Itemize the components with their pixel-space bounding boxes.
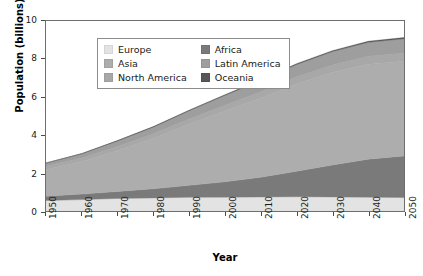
y-tick-label: 10 [26,16,37,25]
x-tick-mark [369,212,370,216]
y-tick-label: 0 [31,208,37,217]
y-axis-title: Population (billions) [14,0,25,131]
y-axis: Population (billions) 0246810 [0,0,45,232]
legend-item-europe: Europe [104,43,187,56]
x-tick-label: 1970 [121,196,130,219]
x-tick-mark [45,212,46,216]
x-tick-mark [189,212,190,216]
y-tick-label: 4 [31,131,37,140]
x-tick-label: 2010 [265,196,274,219]
y-tick-label: 2 [31,169,37,178]
y-tick-label: 8 [31,54,37,63]
legend-item-label: Latin America [215,57,281,70]
x-tick-label: 2040 [373,196,382,219]
legend-swatch-asia-icon [104,59,113,68]
x-tick-label: 1990 [193,196,202,219]
legend-item-label: North America [118,71,187,84]
x-tick-mark [153,212,154,216]
legend-item-asia: Asia [104,57,187,70]
legend-swatch-latin-america-icon [201,59,210,68]
x-tick-label: 1960 [85,196,94,219]
legend-item-label: Europe [118,43,151,56]
x-tick-label: 1950 [49,196,58,219]
x-axis-title: Year [45,252,405,263]
x-tick-mark [117,212,118,216]
x-tick-mark [333,212,334,216]
legend-swatch-europe-icon [104,45,113,54]
x-tick-label: 1980 [157,196,166,219]
x-tick-label: 2030 [337,196,346,219]
legend-grid: EuropeAfricaAsiaLatin AmericaNorth Ameri… [104,43,281,84]
chart-legend: EuropeAfricaAsiaLatin AmericaNorth Ameri… [97,38,290,89]
legend-swatch-africa-icon [201,45,210,54]
y-tick-label: 6 [31,92,37,101]
population-area-chart-figure: Population (billions) 0246810 EuropeAfri… [0,0,423,276]
legend-item-label: Africa [215,43,242,56]
x-tick-mark [297,212,298,216]
x-tick-mark [261,212,262,216]
x-tick-mark [81,212,82,216]
legend-swatch-north-america-icon [104,73,113,82]
x-tick-mark [225,212,226,216]
legend-item-oceania: Oceania [201,71,281,84]
legend-item-africa: Africa [201,43,281,56]
legend-item-label: Oceania [215,71,254,84]
legend-item-label: Asia [118,57,138,70]
plot-area: EuropeAfricaAsiaLatin AmericaNorth Ameri… [45,20,405,212]
legend-swatch-oceania-icon [201,73,210,82]
legend-item-latin-america: Latin America [201,57,281,70]
x-axis: 1950196019701980199020002010202020302040… [45,212,405,274]
x-tick-label: 2000 [229,196,238,219]
x-tick-label: 2020 [301,196,310,219]
x-tick-label: 2050 [409,196,418,219]
x-tick-mark [405,212,406,216]
legend-item-north-america: North America [104,71,187,84]
